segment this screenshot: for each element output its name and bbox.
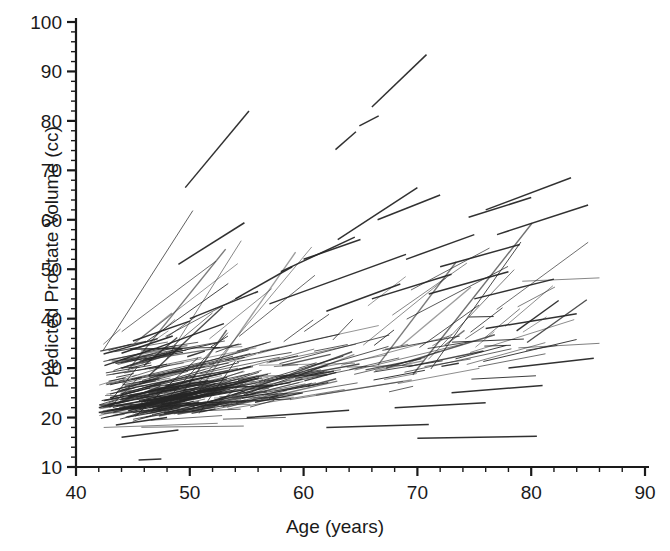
prostate-volume-age-figure: 405060708090102030405060708090100 Predic… [0,0,670,551]
x-tick-label: 80 [521,482,542,503]
y-tick-label: 10 [41,457,62,478]
x-tick-label: 40 [65,482,86,503]
x-tick-label: 60 [293,482,314,503]
x-tick-label: 90 [634,482,655,503]
chart-canvas: 405060708090102030405060708090100 [0,0,670,551]
y-tick-label: 90 [41,61,62,82]
y-axis-title: Predicted Prostate Volume (cc) [41,87,63,427]
x-tick-label: 50 [179,482,200,503]
data-lines-layer [99,55,600,460]
x-axis-title: Age (years) [0,516,670,538]
x-tick-label: 70 [407,482,428,503]
y-tick-label: 100 [30,12,62,33]
tick-label-layer: 405060708090102030405060708090100 [30,12,655,503]
